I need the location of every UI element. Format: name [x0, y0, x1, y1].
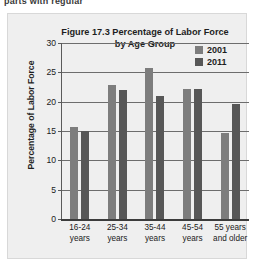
y-tick-label: 5 [51, 185, 56, 195]
x-tick-label: 55 yearsand older [211, 223, 249, 244]
bar-2001-16-24-years [70, 127, 78, 219]
x-tick-label-line: 25-34 [99, 223, 137, 234]
x-tick-label-line: 45-54 [174, 223, 212, 234]
y-axis-label: Percentage of Labor Force [26, 45, 36, 185]
bar-group [211, 43, 249, 219]
chart-title-line-1: Figure 17.3 Percentage of Labor Force [56, 27, 234, 39]
bar-2001-35-44-years [145, 68, 153, 219]
x-tick-label-line: years [136, 234, 174, 245]
x-tick-label-line: 16-24 [61, 223, 99, 234]
y-tick-label: 0 [51, 214, 56, 224]
bar-groups [61, 43, 249, 219]
x-tick-label: 45-54years [174, 223, 212, 244]
page-cut-text: parts with regular [4, 0, 83, 6]
bar-2001-45-54-years [183, 89, 191, 219]
y-axis-line [61, 43, 62, 220]
bar-group [174, 43, 212, 219]
figure-panel: Figure 17.3 Percentage of Labor Force by… [7, 13, 247, 259]
x-tick-label-line: and older [211, 234, 249, 245]
x-tick-label-line: years [99, 234, 137, 245]
plot-area: 302520151050 16-24years25-34years35-44ye… [61, 43, 249, 233]
y-tick-label: 25 [46, 67, 56, 77]
bar-2011-25-34-years [119, 90, 127, 219]
bar-2011-55-years-and-older [232, 104, 240, 219]
x-tick-label-line: years [61, 234, 99, 245]
bar-group [61, 43, 99, 219]
x-axis-labels: 16-24years25-34years35-44years45-54years… [61, 223, 249, 244]
x-tick-label-line: 55 years [211, 223, 249, 234]
x-tick-label-line: 35-44 [136, 223, 174, 234]
y-tick-label: 15 [46, 126, 56, 136]
y-tick-label: 30 [46, 38, 56, 48]
x-axis-line [61, 219, 249, 221]
bar-2001-55-years-and-older [221, 133, 229, 219]
bar-2011-45-54-years [194, 89, 202, 219]
bar-2001-25-34-years [108, 85, 116, 219]
bar-2011-16-24-years [81, 131, 89, 219]
x-tick-label-line: years [174, 234, 212, 245]
y-tick-label: 10 [46, 155, 56, 165]
x-tick-label: 25-34years [99, 223, 137, 244]
bar-group [136, 43, 174, 219]
x-tick-label: 16-24years [61, 223, 99, 244]
x-tick-label: 35-44years [136, 223, 174, 244]
plot-canvas: 302520151050 [61, 43, 249, 219]
bar-group [99, 43, 137, 219]
bar-2011-35-44-years [156, 96, 164, 219]
y-tick-label: 20 [46, 97, 56, 107]
